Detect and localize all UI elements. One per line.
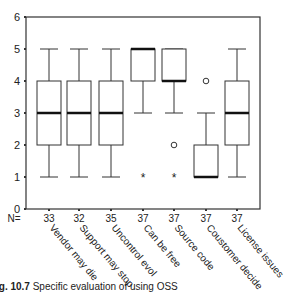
y-tick-label: 4 (14, 75, 20, 87)
box-3 (99, 49, 123, 177)
box-5: * (162, 49, 186, 185)
n-value: 37 (137, 213, 149, 224)
n-value: 37 (231, 213, 243, 224)
n-value: 37 (168, 213, 180, 224)
extreme-asterisk: * (141, 171, 146, 185)
caption-text: Specific evaluation of using OSS (33, 281, 178, 292)
extreme-asterisk: * (172, 171, 177, 185)
box-6 (194, 78, 218, 177)
figure-caption: ig. 10.7 Specific evaluation of using OS… (0, 281, 178, 292)
n-value: 37 (200, 213, 212, 224)
y-tick-label: 1 (14, 171, 20, 183)
category-label: Support may stop (77, 222, 136, 289)
y-tick-label: 3 (14, 107, 20, 119)
caption-prefix: ig. 10.7 (0, 281, 30, 292)
n-value: 35 (105, 213, 117, 224)
y-tick-label: 2 (14, 139, 20, 151)
y-axis: 0123456 (14, 11, 26, 215)
iqr-box (194, 145, 218, 177)
iqr-box (131, 49, 155, 81)
outlier-circle (203, 78, 209, 84)
n-value: 33 (43, 213, 55, 224)
box-4: * (131, 49, 155, 185)
x-axis: N=33Vendor may die32Support may stop35Un… (7, 209, 286, 291)
y-tick-label: 6 (14, 11, 20, 23)
n-label: N= (7, 213, 20, 224)
box-7 (225, 49, 249, 177)
box-1 (37, 49, 61, 177)
n-value: 32 (73, 213, 85, 224)
iqr-box (162, 49, 186, 81)
category-label: Coustomer decide (204, 222, 265, 291)
y-tick-label: 5 (14, 43, 20, 55)
outlier-circle (171, 142, 177, 148)
boxes: ** (37, 49, 249, 185)
box-2 (67, 49, 91, 177)
